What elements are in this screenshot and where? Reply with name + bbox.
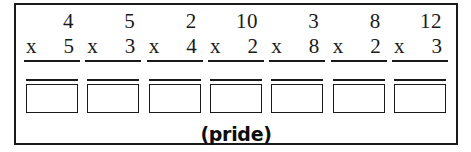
answer-rule — [26, 79, 78, 81]
multiplication-operator-icon: x — [24, 34, 37, 59]
answer-rule — [149, 79, 201, 81]
multiplier: 4 — [186, 34, 203, 59]
multiplicand: 2 — [186, 9, 203, 34]
operand-line: x 3 — [392, 34, 448, 62]
multiplier: 3 — [125, 34, 142, 59]
multiplication-operator-icon: x — [147, 34, 160, 59]
answer-rule — [210, 79, 262, 81]
problem-column: 10 x 2 — [208, 9, 264, 62]
multiplicand: 10 — [236, 9, 264, 34]
problems-row: 4 x 5 5 x 3 2 x 4 — [16, 5, 456, 73]
problem-column: 3 x 8 — [269, 9, 325, 62]
multiplier: 3 — [431, 34, 448, 59]
problem-column: 12 x 3 — [392, 9, 448, 62]
answer-cell — [392, 79, 448, 113]
multiplier: 5 — [64, 34, 81, 59]
operand-line: x 2 — [208, 34, 264, 62]
operand-line: x 5 — [24, 34, 80, 62]
answer-rule — [271, 79, 323, 81]
answer-cell — [208, 79, 264, 113]
operand-line: x 3 — [85, 34, 141, 62]
operand-line: x 4 — [147, 34, 203, 62]
answers-row — [16, 79, 456, 123]
multiplier: 2 — [247, 34, 264, 59]
answer-box[interactable] — [87, 84, 139, 113]
operand-line: x 2 — [331, 34, 387, 62]
answer-rule — [394, 79, 446, 81]
answer-box[interactable] — [26, 84, 78, 113]
answer-box[interactable] — [149, 84, 201, 113]
answer-box[interactable] — [210, 84, 262, 113]
worksheet-caption: (pride) — [16, 123, 456, 145]
multiplication-operator-icon: x — [85, 34, 98, 59]
problem-column: 8 x 2 — [331, 9, 387, 62]
problem-column: 2 x 4 — [147, 9, 203, 62]
multiplicand: 8 — [370, 9, 387, 34]
answer-box[interactable] — [271, 84, 323, 113]
multiplication-operator-icon: x — [331, 34, 344, 59]
answer-box[interactable] — [394, 84, 446, 113]
answer-cell — [85, 79, 141, 113]
answer-cell — [147, 79, 203, 113]
multiplication-worksheet: 4 x 5 5 x 3 2 x 4 — [0, 0, 471, 152]
problem-column: 4 x 5 — [24, 9, 80, 62]
multiplier: 2 — [370, 34, 387, 59]
answer-cell — [24, 79, 80, 113]
operand-line: x 8 — [269, 34, 325, 62]
multiplicand: 3 — [308, 9, 325, 34]
multiplicand: 4 — [63, 9, 80, 34]
multiplication-operator-icon: x — [392, 34, 405, 59]
worksheet-frame: 4 x 5 5 x 3 2 x 4 — [14, 3, 458, 145]
answer-rule — [87, 79, 139, 81]
multiplicand: 5 — [124, 9, 141, 34]
answer-rule — [333, 79, 385, 81]
problem-column: 5 x 3 — [85, 9, 141, 62]
answer-cell — [269, 79, 325, 113]
multiplication-operator-icon: x — [208, 34, 221, 59]
multiplication-operator-icon: x — [269, 34, 282, 59]
multiplicand: 12 — [420, 9, 448, 34]
answer-cell — [331, 79, 387, 113]
multiplier: 8 — [309, 34, 326, 59]
answer-box[interactable] — [333, 84, 385, 113]
